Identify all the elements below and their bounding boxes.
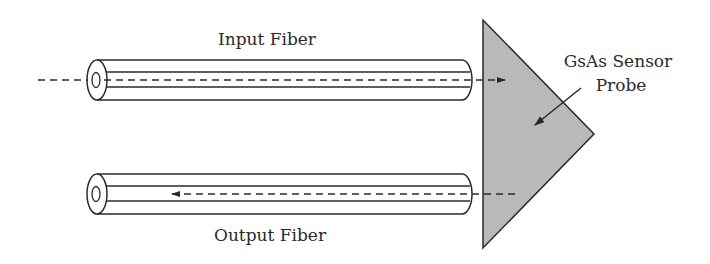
input-fiber-label: Input Fiber (218, 29, 317, 49)
output-fiber (87, 174, 515, 214)
sensor-label-line2: Probe (596, 75, 647, 95)
sensor-label-line1: GsAs Sensor (564, 51, 673, 71)
input-fiber (38, 60, 505, 100)
input-fiber-end-core (92, 73, 100, 88)
output-fiber-label: Output Fiber (214, 225, 327, 245)
fiber-sensor-diagram: Input Fiber Output Fiber GsAs Sensor Pro… (0, 0, 710, 264)
output-fiber-end-core (92, 187, 100, 202)
